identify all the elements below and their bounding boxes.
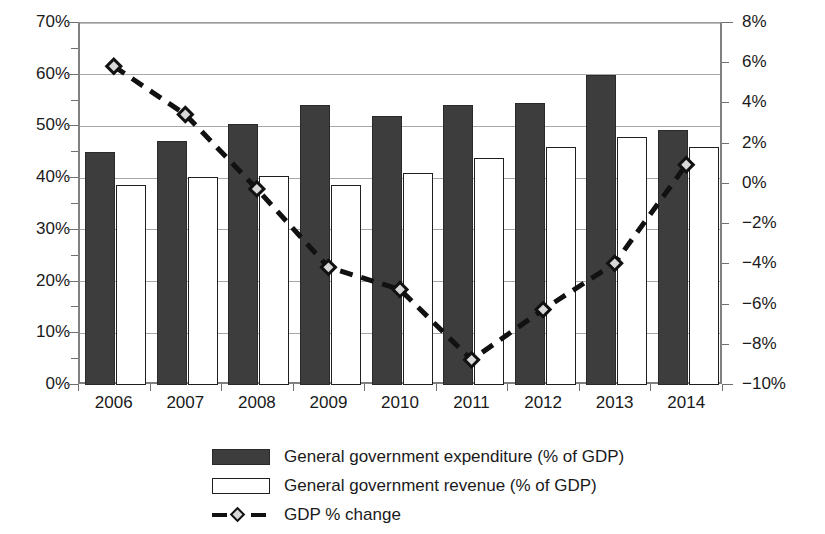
bar-revenue-2014: [689, 147, 719, 385]
right-axis-tick-label: −6%: [742, 295, 822, 312]
legend-line-segment-right: [251, 513, 266, 517]
category-tick: [722, 384, 723, 391]
category-tick: [150, 384, 151, 391]
left-axis-tick-mark: [67, 229, 78, 230]
bar-expenditure-2006: [85, 152, 115, 385]
left-axis-minor-tick: [71, 203, 78, 204]
legend-label-revenue: General government revenue (% of GDP): [284, 476, 597, 495]
right-axis-tick-label: 4%: [742, 93, 822, 110]
bar-expenditure-2009: [300, 105, 330, 385]
category-label-2008: 2008: [221, 394, 293, 412]
right-axis-tick-label: 6%: [742, 53, 822, 70]
plot-area: [78, 22, 722, 384]
left-axis-tick-mark: [67, 281, 78, 282]
left-axis-minor-tick: [71, 151, 78, 152]
legend-label-gdp-change: GDP % change: [284, 505, 401, 524]
category-label-2014: 2014: [650, 394, 722, 412]
category-tick: [293, 384, 294, 391]
category-label-2006: 2006: [78, 394, 150, 412]
category-label-2012: 2012: [507, 394, 579, 412]
left-axis-tick-label: 50%: [0, 116, 70, 133]
gdp-expenditure-revenue-chart: 0%10%20%30%40%50%60%70% −10%−8%−6%−4%−2%…: [0, 0, 825, 534]
left-axis-minor-tick: [71, 48, 78, 49]
legend-item-revenue: General government revenue (% of GDP): [212, 471, 732, 500]
right-axis-tick-mark: [722, 102, 729, 103]
right-axis-tick-mark: [722, 22, 733, 23]
gridline: [80, 23, 720, 24]
right-axis-tick-mark: [722, 304, 729, 305]
left-axis-tick-label: 60%: [0, 65, 70, 82]
right-axis-tick-label: 8%: [742, 13, 822, 30]
legend-swatch-expenditure: [212, 449, 270, 465]
legend-swatch-revenue: [212, 478, 270, 494]
left-axis-tick-mark: [67, 332, 78, 333]
right-axis-tick-mark: [722, 62, 729, 63]
bar-revenue-2012: [546, 147, 576, 385]
left-axis-tick-mark: [67, 22, 78, 23]
legend-item-gdp-change: GDP % change: [212, 500, 732, 529]
right-axis-tick-mark: [722, 143, 729, 144]
bar-revenue-2008: [259, 176, 289, 385]
legend-label-expenditure: General government expenditure (% of GDP…: [284, 447, 624, 466]
category-label-2011: 2011: [436, 394, 508, 412]
right-axis-tick-label: −4%: [742, 254, 822, 271]
legend: General government expenditure (% of GDP…: [212, 442, 732, 529]
right-axis-tick-label: −2%: [742, 214, 822, 231]
left-axis-minor-tick: [71, 306, 78, 307]
bar-revenue-2010: [403, 173, 433, 385]
bar-revenue-2013: [617, 137, 647, 385]
diamond-marker-icon: [230, 506, 246, 522]
left-axis-tick-mark: [67, 74, 78, 75]
right-axis-tick-mark: [722, 223, 729, 224]
left-axis-tick-label: 10%: [0, 323, 70, 340]
left-axis-tick-label: 30%: [0, 220, 70, 237]
bar-expenditure-2012: [515, 103, 545, 385]
right-axis-tick-mark: [722, 183, 729, 184]
right-axis-tick-mark: [722, 344, 729, 345]
legend-item-expenditure: General government expenditure (% of GDP…: [212, 442, 732, 471]
bar-revenue-2011: [474, 158, 504, 385]
legend-swatch-gdp-change: [212, 507, 270, 523]
category-label-2009: 2009: [293, 394, 365, 412]
category-tick: [78, 384, 79, 391]
right-axis-tick-label: 2%: [742, 134, 822, 151]
bar-expenditure-2013: [586, 75, 616, 385]
category-label-2010: 2010: [364, 394, 436, 412]
left-axis-minor-tick: [71, 358, 78, 359]
bar-expenditure-2007: [157, 141, 187, 385]
legend-line-segment-left: [212, 513, 227, 517]
left-axis-tick-mark: [67, 125, 78, 126]
left-axis-minor-tick: [71, 255, 78, 256]
left-axis-tick-label: 0%: [0, 375, 70, 392]
category-tick: [436, 384, 437, 391]
bar-expenditure-2010: [372, 116, 402, 385]
bar-expenditure-2014: [658, 130, 688, 385]
left-axis-tick-label: 70%: [0, 13, 70, 30]
category-tick: [507, 384, 508, 391]
bar-revenue-2009: [331, 185, 361, 385]
left-axis-minor-tick: [71, 100, 78, 101]
right-axis-tick-mark: [722, 384, 733, 385]
category-tick: [579, 384, 580, 391]
category-label-2013: 2013: [579, 394, 651, 412]
left-axis-tick-label: 20%: [0, 272, 70, 289]
right-axis-tick-label: −10%: [742, 375, 822, 392]
bar-expenditure-2011: [443, 105, 473, 385]
bar-revenue-2007: [188, 177, 218, 385]
left-axis-tick-mark: [67, 177, 78, 178]
bar-revenue-2006: [116, 185, 146, 385]
right-axis-tick-mark: [722, 263, 729, 264]
category-tick: [221, 384, 222, 391]
category-tick: [364, 384, 365, 391]
right-axis-tick-label: 0%: [742, 174, 822, 191]
left-axis-tick-mark: [67, 384, 78, 385]
category-label-2007: 2007: [150, 394, 222, 412]
bar-expenditure-2008: [228, 124, 258, 385]
left-axis-tick-label: 40%: [0, 168, 70, 185]
category-tick: [650, 384, 651, 391]
gridline: [80, 74, 720, 75]
right-axis-tick-label: −8%: [742, 335, 822, 352]
